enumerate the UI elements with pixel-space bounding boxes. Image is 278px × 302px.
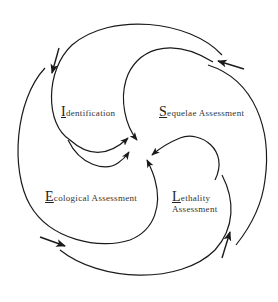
label-lethality-line2: Assessment [172,204,218,215]
label-initial-e: E [45,189,54,204]
spiral-lethality [152,136,219,180]
input-arrow-bottom-right [222,232,230,258]
spiral-ecological-outer [18,68,158,244]
label-lethality-line1: Lethality [172,191,218,204]
label-initial-l: L [172,189,181,204]
label-rest-ecological: cological Assessment [54,193,137,203]
label-ecological-assessment: Ecological Assessment [45,191,137,204]
label-identification: Identification [61,106,115,119]
label-rest-sequelae: equelae Assessment [167,108,244,118]
spiral-identification [51,24,222,152]
label-lethality-assessment: Lethality Assessment [172,191,218,215]
spiral-cycle-diagram [0,0,278,302]
spiral-sequelae-outer [208,65,267,245]
input-arrow-top-right [218,61,244,69]
input-arrow-top-left [52,48,59,73]
label-rest-lethality: ethality [181,193,210,203]
spiral-sequelae [123,48,213,140]
label-rest-identification: dentification [66,108,115,118]
label-initial-s: S [159,104,167,119]
label-sequelae-assessment: Sequelae Assessment [159,106,244,119]
input-arrow-bottom-left [40,237,65,246]
